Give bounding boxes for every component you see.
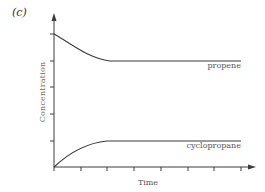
panel-label: (c)	[12, 6, 27, 19]
x-axis-label: Time	[138, 178, 158, 187]
cyclopropane-label: cyclopropane	[187, 141, 241, 150]
propene-label: propene	[207, 61, 241, 70]
propene-curve	[54, 34, 241, 61]
y-axis-arrow-icon	[52, 13, 57, 21]
y-ticks	[50, 34, 54, 141]
x-axis-arrow-icon	[248, 165, 256, 170]
x-ticks	[54, 167, 241, 171]
y-axis-label: Concentration	[38, 62, 47, 123]
